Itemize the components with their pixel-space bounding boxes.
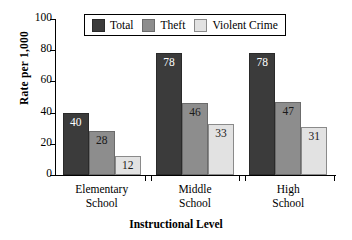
x-category-label: HighSchool (242, 182, 335, 210)
legend-label: Violent Crime (212, 19, 277, 31)
legend: TotalTheftViolent Crime (84, 14, 286, 36)
bar: 78 (249, 53, 275, 175)
y-tick-label: 100 (18, 11, 52, 23)
bar-value-label: 78 (250, 57, 274, 69)
bar-value-label: 46 (183, 107, 207, 119)
bar-value-label: 31 (302, 131, 326, 143)
x-category-label: MiddleSchool (148, 182, 241, 210)
x-axis-title: Instructional Level (0, 218, 352, 230)
bar-value-label: 12 (116, 160, 140, 172)
x-category-label-line: Middle (148, 182, 241, 196)
plot-area: 020406080100 402812784633784731 (55, 19, 335, 175)
x-category-label-line: Elementary (55, 182, 148, 196)
legend-label: Theft (160, 19, 185, 31)
legend-item: Theft (142, 19, 185, 32)
y-tick-label: 60 (18, 73, 52, 85)
bar: 46 (182, 103, 208, 175)
legend-swatch (194, 19, 207, 32)
x-category-label-line: High (242, 182, 335, 196)
y-tick-label: 40 (18, 105, 52, 117)
legend-swatch (142, 19, 155, 32)
bar-value-label: 47 (276, 106, 300, 118)
x-tick-mark (239, 176, 240, 181)
x-tick-mark (334, 176, 335, 181)
x-tick-mark (151, 176, 152, 181)
bar: 78 (156, 53, 182, 175)
x-axis-line (55, 175, 336, 176)
x-category-label: ElementarySchool (55, 182, 148, 210)
bar: 28 (89, 131, 115, 175)
bar-value-label: 28 (90, 135, 114, 147)
bar: 47 (275, 102, 301, 175)
y-tick-label: 80 (18, 42, 52, 54)
y-axis-line (55, 19, 56, 176)
x-tick-mark (245, 176, 246, 181)
x-category-label-line: School (55, 196, 148, 210)
bar: 12 (115, 156, 141, 175)
y-tick-label: 20 (18, 136, 52, 148)
bar-value-label: 78 (157, 57, 181, 69)
legend-item: Violent Crime (194, 19, 277, 32)
legend-label: Total (110, 19, 133, 31)
bar-chart: Rate per 1,000 020406080100 402812784633… (0, 0, 352, 240)
legend-item: Total (92, 19, 133, 32)
y-tick-label: 0 (18, 167, 52, 179)
x-category-label-line: School (242, 196, 335, 210)
legend-swatch (92, 19, 105, 32)
x-category-label-line: School (148, 196, 241, 210)
bar-value-label: 33 (209, 128, 233, 140)
bar: 33 (208, 124, 234, 175)
x-tick-mark (145, 176, 146, 181)
bar: 40 (63, 113, 89, 175)
bar: 31 (301, 127, 327, 175)
bar-value-label: 40 (64, 117, 88, 129)
